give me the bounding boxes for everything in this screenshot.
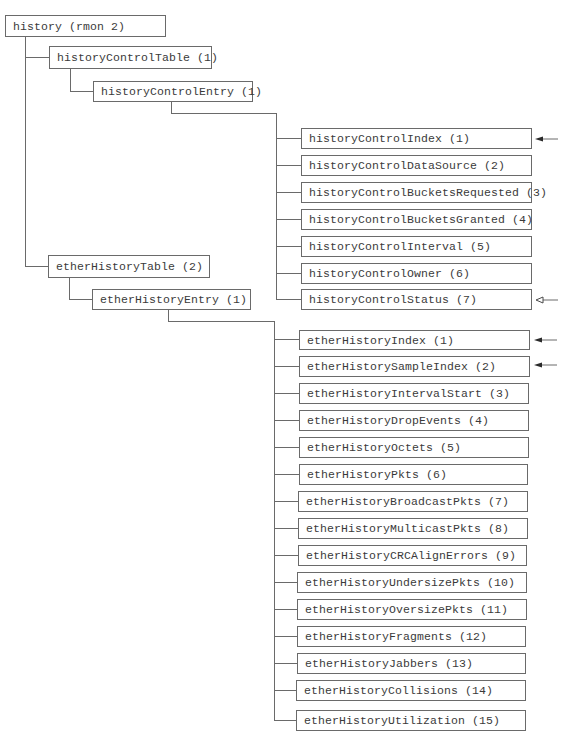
arrow-markers [0,0,569,740]
index-arrow-icon [534,363,557,368]
mib-tree-diagram: history (rmon 2) historyControlTable (1)… [0,0,569,740]
status-arrow-hollow-icon [536,297,558,303]
index-arrow-icon [534,338,557,343]
index-arrow-icon [535,137,558,142]
